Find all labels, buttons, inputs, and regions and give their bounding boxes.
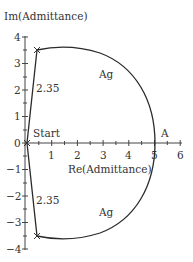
x-tick-4: 4 bbox=[125, 149, 132, 161]
value-bottom-label: 2.35 bbox=[36, 194, 59, 206]
y-tick-4: 4 bbox=[14, 31, 21, 43]
y-tick-neg2: −2 bbox=[6, 190, 21, 202]
ag-top-label: Ag bbox=[98, 68, 114, 80]
x-tick-3: 3 bbox=[100, 149, 107, 161]
value-top-label: 2.35 bbox=[36, 82, 59, 94]
y-tick-1: 1 bbox=[14, 110, 21, 122]
y-tick-3: 3 bbox=[14, 57, 21, 69]
y-axis-label: Im(Admittance) bbox=[4, 10, 87, 22]
point-a-label: A bbox=[160, 127, 169, 139]
y-tick-0: 0 bbox=[14, 137, 21, 149]
x-axis-label: Re(Admittance) bbox=[68, 163, 152, 175]
ag-bottom-label: Ag bbox=[98, 206, 114, 218]
x-tick-2: 2 bbox=[74, 149, 81, 161]
x-tick-6: 6 bbox=[177, 149, 184, 161]
y-tick-neg3: −3 bbox=[6, 216, 21, 228]
x-tick-labels: 1 2 3 4 5 6 bbox=[48, 149, 184, 161]
y-tick-2: 2 bbox=[14, 84, 21, 96]
y-tick-labels: 4 3 2 1 0 −1 −2 −3 −4 bbox=[6, 31, 22, 255]
admittance-chart: Im(Admittance) 4 3 2 1 0 −1 −2 −3 −4 bbox=[0, 0, 193, 262]
start-label: Start bbox=[33, 127, 61, 139]
x-tick-1: 1 bbox=[48, 149, 55, 161]
y-tick-neg4: −4 bbox=[6, 243, 22, 255]
y-tick-neg1: −1 bbox=[6, 163, 21, 175]
